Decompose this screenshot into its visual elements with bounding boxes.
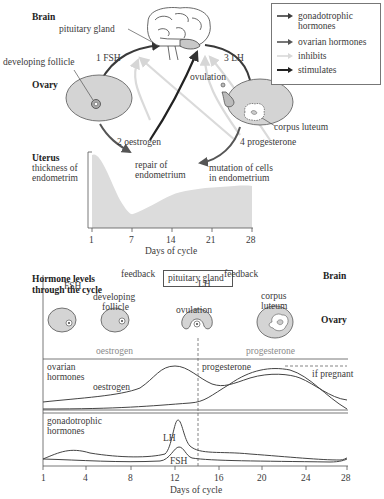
gonadotrophic-label-1: gonadotrophic bbox=[47, 416, 102, 426]
progesterone-label: 4 progesterone bbox=[240, 137, 296, 147]
ovary-label: Ovary bbox=[32, 80, 58, 90]
oestrogen-grey-label: oestrogen bbox=[96, 346, 133, 356]
corpus-luteum-label: corpus luteum bbox=[274, 122, 328, 132]
brain-label: Brain bbox=[32, 12, 55, 22]
ovary-label-bottom: Ovary bbox=[321, 315, 347, 325]
progesterone-to-uterus-arrow bbox=[200, 127, 240, 163]
progesterone-grey-label: progesterone bbox=[246, 346, 295, 356]
repair-label-2: endometrium bbox=[135, 170, 186, 180]
tick-28: 28 bbox=[341, 473, 351, 483]
feedback-label-2: feedback bbox=[224, 269, 258, 279]
developing-label-1: developing bbox=[93, 292, 135, 302]
x-axis-label: Days of cycle bbox=[170, 485, 222, 495]
ovarian-hormones-label-2: hormones bbox=[47, 372, 84, 382]
brain-icon bbox=[148, 8, 211, 60]
ovulation-label: ovulation bbox=[190, 72, 226, 82]
oestrogen-curve bbox=[43, 366, 347, 402]
uterus-tick-21: 21 bbox=[206, 235, 216, 245]
ovarian-hormones-label-1: ovarian bbox=[47, 362, 76, 372]
left-ovary-shape bbox=[66, 75, 132, 121]
oestrogen-stim-arrow bbox=[150, 52, 197, 140]
ovary-stage-1-shape bbox=[48, 308, 76, 332]
legend-item-ovarian: ovarian hormones bbox=[272, 37, 366, 47]
if-pregnant-label: if pregnant bbox=[312, 369, 353, 379]
stimulates-arrow-icon bbox=[272, 65, 298, 75]
uterus-tick-7: 7 bbox=[129, 235, 134, 245]
tick-20: 20 bbox=[257, 473, 267, 483]
tick-8: 8 bbox=[128, 473, 133, 483]
lh-curve-label: LH bbox=[163, 433, 176, 443]
tick-16: 16 bbox=[214, 473, 224, 483]
legend-item-gonadotrophic: gonadotrophic hormones bbox=[272, 11, 353, 31]
progesterone-curve bbox=[43, 369, 347, 409]
ovarian-arrow-icon bbox=[272, 37, 298, 47]
lh-label-bottom: LH bbox=[198, 279, 211, 289]
developing-follicle-label: developing follicle bbox=[3, 57, 75, 67]
pituitary-gland-box-label: pituitary gland bbox=[168, 273, 224, 283]
fsh-label-bottom: FSH bbox=[64, 281, 81, 291]
legend: gonadotrophic hormones ovarian hormones … bbox=[271, 3, 381, 85]
fsh-curve-label: FSH bbox=[170, 456, 187, 466]
progesterone-curve-label: progesterone bbox=[202, 362, 251, 372]
tick-24: 24 bbox=[301, 473, 311, 483]
uterus-tick-14: 14 bbox=[166, 235, 176, 245]
lh-label: 3 LH bbox=[224, 53, 244, 63]
corpus-label-2: luteum bbox=[261, 301, 287, 311]
developing-label-2: follicle bbox=[102, 302, 129, 312]
thickness-label-1: thickness of bbox=[32, 163, 78, 173]
uterus-tick-28: 28 bbox=[246, 235, 256, 245]
tick-1: 1 bbox=[41, 473, 46, 483]
x-axis-ticks bbox=[43, 466, 347, 470]
corpus-label-1: corpus bbox=[261, 291, 286, 301]
legend-item-stimulates: stimulates bbox=[272, 65, 337, 75]
mutation-label-1: mutation of cells bbox=[209, 163, 273, 173]
gonadotrophic-arrow-icon bbox=[272, 11, 298, 21]
uterus-label: Uterus bbox=[32, 153, 59, 163]
oestrogen-curve-label: oestrogen bbox=[93, 382, 130, 392]
legend-item-inhibits: inhibits bbox=[272, 51, 327, 61]
oestrogen-label: 2 oestrogen bbox=[117, 137, 161, 147]
feedback-label-1: feedback bbox=[121, 269, 155, 279]
brain-label-bottom: Brain bbox=[323, 271, 346, 281]
mutation-label-2: in endometrium bbox=[209, 173, 269, 183]
gonadotrophic-label-2: hormones bbox=[47, 426, 84, 436]
pituitary-gland-label: pituitary gland bbox=[59, 24, 115, 34]
lh-curve bbox=[43, 420, 347, 460]
inhibits-arrow-icon bbox=[272, 51, 298, 61]
thickness-label-2: endometrim bbox=[32, 173, 78, 183]
fsh-label: 1 FSH bbox=[96, 53, 121, 63]
tick-12: 12 bbox=[170, 473, 180, 483]
uterus-tick-1: 1 bbox=[89, 235, 94, 245]
ovulation-label-bottom: ovulation bbox=[176, 305, 212, 315]
uterus-x-axis-label: Days of cycle bbox=[145, 246, 197, 256]
tick-4: 4 bbox=[83, 473, 88, 483]
repair-label-1: repair of bbox=[135, 160, 167, 170]
